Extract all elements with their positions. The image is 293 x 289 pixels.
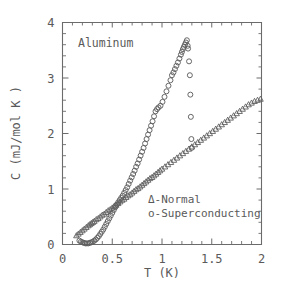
y-tick-label: 3	[47, 72, 54, 86]
data-point-circle	[187, 73, 192, 78]
data-point-circle	[188, 114, 193, 119]
legend-entry-superconducting: o-Superconducting	[148, 207, 261, 220]
data-point-circle	[150, 119, 155, 124]
data-point-circle	[187, 59, 192, 64]
y-tick-label: 0	[47, 238, 54, 252]
x-tick-label: 0.5	[101, 252, 123, 266]
data-point-circle	[188, 92, 193, 97]
chart-canvas: 00.511.52 01234 T (K) C (mJ/mol K ) Alum…	[0, 0, 293, 289]
y-tick-label: 4	[47, 16, 54, 30]
data-point-circle	[164, 89, 169, 94]
x-tick-label: 2	[258, 252, 265, 266]
y-tick-label: 2	[47, 127, 54, 141]
y-axis-title: C (mJ/mol K )	[9, 86, 23, 180]
x-axis-title: T (K)	[144, 266, 180, 280]
legend-entry-normal: Δ-Normal	[148, 193, 201, 206]
y-axis-tick-labels: 01234	[47, 16, 54, 252]
y-tick-label: 1	[47, 183, 54, 197]
plot-annotation-label: Aluminum	[78, 36, 133, 50]
x-tick-label: 1	[158, 252, 165, 266]
data-point-circle	[168, 78, 173, 83]
chart-figure: 00.511.52 01234 T (K) C (mJ/mol K ) Alum…	[0, 0, 293, 289]
data-point-circle	[162, 94, 167, 99]
data-point-circle	[152, 114, 157, 119]
x-axis-tick-labels: 00.511.52	[59, 252, 265, 266]
data-point-circle	[166, 83, 171, 88]
data-point-circle	[189, 137, 194, 142]
x-tick-label: 0	[59, 252, 66, 266]
x-tick-label: 1.5	[201, 252, 223, 266]
